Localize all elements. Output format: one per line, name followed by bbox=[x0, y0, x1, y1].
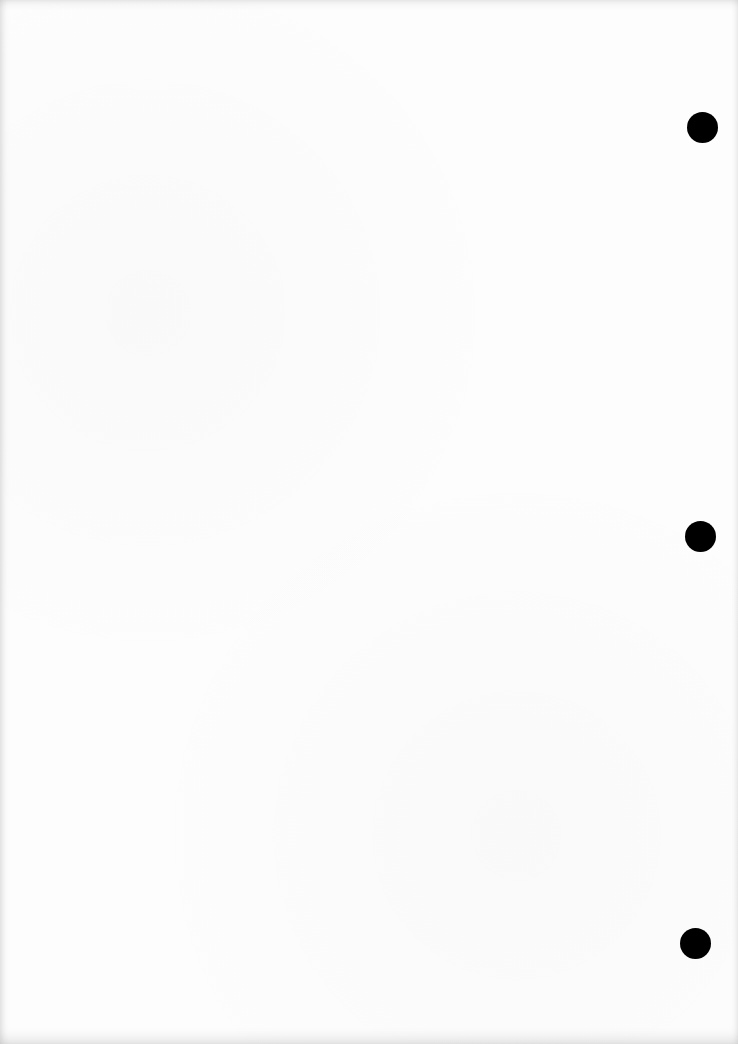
punch-hole-middle bbox=[685, 521, 716, 552]
blank-page bbox=[0, 0, 738, 1044]
punch-hole-bottom bbox=[680, 928, 711, 959]
punch-hole-top bbox=[687, 112, 718, 143]
paper-texture bbox=[0, 0, 738, 1044]
